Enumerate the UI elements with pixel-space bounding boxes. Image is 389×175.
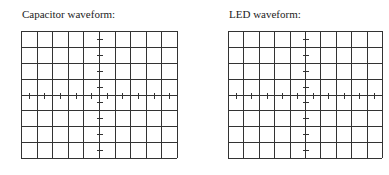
oscilloscope-graticule <box>21 31 178 159</box>
capacitor-waveform-grid <box>21 31 177 158</box>
capacitor-waveform-label: Capacitor waveform: <box>22 8 115 20</box>
led-waveform-label: LED waveform: <box>229 8 301 20</box>
oscilloscope-graticule <box>228 31 383 159</box>
led-waveform-grid <box>228 31 382 158</box>
